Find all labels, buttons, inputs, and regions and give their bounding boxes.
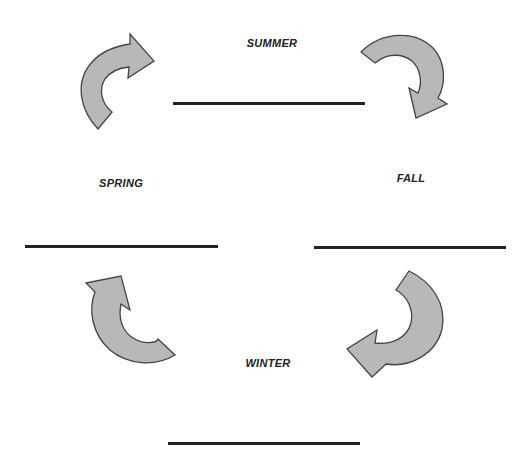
answer-line-winter[interactable] xyxy=(168,442,360,445)
answer-line-fall[interactable] xyxy=(314,246,506,249)
answer-line-spring[interactable] xyxy=(25,245,218,248)
season-label-summer: SUMMER xyxy=(247,37,298,49)
arrow-fall-to-winter-icon xyxy=(347,271,443,377)
arrow-winter-to-spring-icon xyxy=(86,276,175,363)
answer-line-summer[interactable] xyxy=(173,102,365,105)
arrow-spring-to-summer-icon xyxy=(81,34,154,129)
cycle-arrows xyxy=(0,0,531,463)
season-label-fall: FALL xyxy=(397,172,426,184)
season-label-winter: WINTER xyxy=(245,357,290,369)
season-label-spring: SPRING xyxy=(99,177,143,189)
arrow-summer-to-fall-icon xyxy=(361,35,447,118)
